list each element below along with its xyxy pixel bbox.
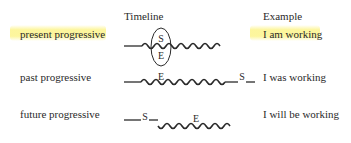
marker-e-present: E bbox=[158, 50, 164, 61]
marker-s-present: S bbox=[158, 33, 164, 44]
timeline-past bbox=[124, 80, 255, 85]
timeline-diagrams: S E E S S E bbox=[0, 0, 351, 143]
marker-s-past: S bbox=[239, 71, 245, 82]
timeline-future bbox=[124, 120, 230, 129]
timeline-present bbox=[124, 28, 220, 66]
marker-e-future: E bbox=[193, 113, 199, 124]
marker-e-past: E bbox=[158, 71, 164, 82]
marker-s-future: S bbox=[142, 111, 148, 122]
